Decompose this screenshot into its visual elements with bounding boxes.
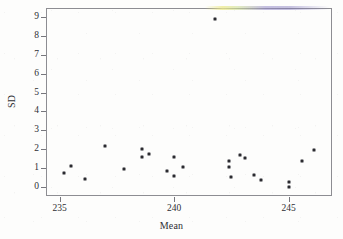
y-axis-tick-label: 8 bbox=[13, 31, 39, 41]
x-axis-tick-label: 235 bbox=[40, 204, 80, 214]
data-point bbox=[230, 176, 233, 179]
data-point bbox=[141, 155, 144, 158]
y-axis-tick-label: 7 bbox=[13, 50, 39, 60]
y-axis-tick-mark bbox=[41, 187, 46, 188]
data-point bbox=[301, 160, 304, 163]
y-axis-tick-label: 9 bbox=[13, 12, 39, 22]
y-axis-tick-label: 0 bbox=[13, 182, 39, 192]
data-point bbox=[214, 17, 217, 20]
y-axis-tick-mark bbox=[41, 74, 46, 75]
x-axis-tick-mark bbox=[174, 197, 175, 202]
data-point bbox=[228, 165, 231, 168]
data-point bbox=[182, 165, 185, 168]
data-point bbox=[260, 179, 263, 182]
x-axis-tick-label: 245 bbox=[269, 204, 309, 214]
y-axis-tick-mark bbox=[41, 93, 46, 94]
data-point bbox=[228, 160, 231, 163]
y-axis-title: SD bbox=[6, 82, 17, 122]
x-axis-tick-mark bbox=[60, 197, 61, 202]
y-axis-tick-mark bbox=[41, 168, 46, 169]
data-point bbox=[141, 148, 144, 151]
y-axis-tick-label: 4 bbox=[13, 106, 39, 116]
data-point bbox=[63, 171, 66, 174]
data-point bbox=[173, 175, 176, 178]
data-point bbox=[166, 169, 169, 172]
data-point bbox=[122, 168, 125, 171]
y-axis-tick-label: 2 bbox=[13, 144, 39, 154]
data-point bbox=[104, 144, 107, 147]
data-point bbox=[287, 181, 290, 184]
x-axis-tick-mark bbox=[289, 197, 290, 202]
y-axis-tick-mark bbox=[41, 149, 46, 150]
data-point bbox=[173, 155, 176, 158]
y-axis-tick-label: 5 bbox=[13, 88, 39, 98]
plot-data-area bbox=[46, 8, 332, 196]
y-axis-tick-mark bbox=[41, 55, 46, 56]
data-point bbox=[312, 149, 315, 152]
y-axis-tick-mark bbox=[41, 111, 46, 112]
data-point bbox=[70, 164, 73, 167]
data-point bbox=[239, 154, 242, 157]
y-axis-tick-mark bbox=[41, 36, 46, 37]
data-point bbox=[83, 177, 86, 180]
x-axis-title: Mean bbox=[0, 220, 343, 231]
y-axis-tick-label: 3 bbox=[13, 125, 39, 135]
scatter-plot-figure: 0123456789 235240245 SD Mean bbox=[0, 0, 343, 239]
data-point bbox=[287, 185, 290, 188]
y-axis-tick-label: 6 bbox=[13, 69, 39, 79]
x-axis-tick-label: 240 bbox=[154, 204, 194, 214]
data-point bbox=[147, 152, 150, 155]
data-point bbox=[253, 174, 256, 177]
y-axis-tick-mark bbox=[41, 130, 46, 131]
data-point bbox=[244, 157, 247, 160]
y-axis-tick-mark bbox=[41, 17, 46, 18]
y-axis-tick-label: 1 bbox=[13, 163, 39, 173]
